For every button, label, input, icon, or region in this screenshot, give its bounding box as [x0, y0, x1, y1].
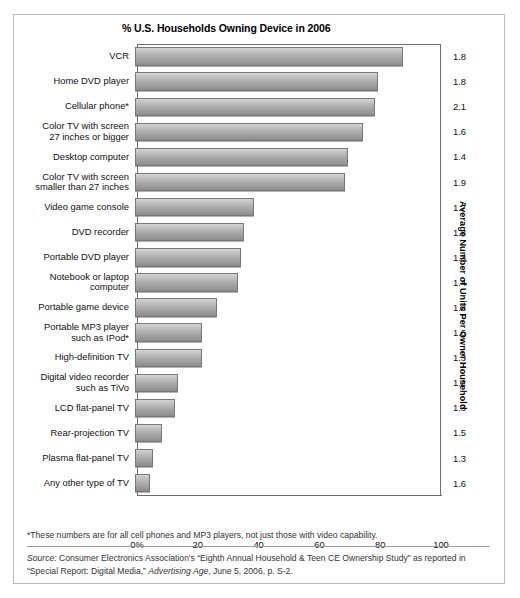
units-per-household-value: 1.2 — [439, 377, 499, 388]
bar-cell — [135, 69, 439, 94]
units-per-household-value: 1.3 — [439, 352, 499, 363]
bar — [135, 449, 153, 467]
units-per-household-value: 1.5 — [439, 427, 499, 438]
bar-cell — [135, 446, 439, 471]
bar-cell — [135, 119, 439, 144]
bar-row-label: DVD recorder — [13, 227, 135, 238]
bar — [135, 374, 178, 392]
bar-row-label-line1: LCD flat-panel TV — [55, 402, 129, 413]
bar-cell — [135, 270, 439, 295]
bar-row: LCD flat-panel TV1.3 — [13, 395, 505, 420]
bar-row-label-line2: such as TiVo — [13, 383, 129, 394]
bar-cell — [135, 94, 439, 119]
bar — [135, 323, 202, 341]
chart-page: % U.S. Households Owning Device in 2006 … — [0, 0, 520, 598]
bar — [135, 474, 150, 492]
bar-row-label: Color TV with screensmaller than 27 inch… — [13, 172, 135, 193]
bar-cell — [135, 420, 439, 445]
bar-cell — [135, 471, 439, 496]
bar-row-label: Notebook or laptopcomputer — [13, 272, 135, 293]
bar-row: Rear-projection TV1.5 — [13, 420, 505, 445]
bar-cell — [135, 345, 439, 370]
bar — [135, 173, 345, 191]
bar-row-label: Plasma flat-panel TV — [13, 453, 135, 464]
bar-row-label: Any other type of TV — [13, 478, 135, 489]
bar-cell — [135, 195, 439, 220]
bar-cell — [135, 245, 439, 270]
units-per-household-value: 1.3 — [439, 227, 499, 238]
bar-row-label: Cellular phone* — [13, 101, 135, 112]
bar-cell — [135, 220, 439, 245]
footnote: *These numbers are for all cell phones a… — [27, 530, 487, 541]
units-per-household-value: 1.4 — [439, 277, 499, 288]
bar-cell — [135, 169, 439, 194]
units-per-household-value: 1.6 — [439, 126, 499, 137]
bar-row-label-line1: Portable game device — [38, 301, 129, 312]
bar-row: Plasma flat-panel TV1.3 — [13, 446, 505, 471]
bar — [135, 148, 348, 166]
bar-row-label: Video game console — [13, 202, 135, 213]
bar-row: Portable DVD player1.3 — [13, 245, 505, 270]
bar-row: VCR1.8 — [13, 44, 505, 69]
bar-cell — [135, 295, 439, 320]
bar-row-label-line2: smaller than 27 inches — [13, 182, 129, 193]
bar-row-label-line1: Portable DVD player — [44, 251, 129, 262]
bar-row-label: LCD flat-panel TV — [13, 403, 135, 414]
units-per-household-value: 1.7 — [439, 202, 499, 213]
bar-cell — [135, 144, 439, 169]
bar-rows: VCR1.8Home DVD player1.8Cellular phone*2… — [13, 44, 505, 496]
bar — [135, 123, 363, 141]
bar-row-label-line1: DVD recorder — [72, 226, 129, 237]
bar-row-label-line1: Portable MP3 player — [44, 321, 129, 332]
bar-row: Notebook or laptopcomputer1.4 — [13, 270, 505, 295]
bar-row-label-line1: Color TV with screen — [42, 171, 129, 182]
units-per-household-value: 1.4 — [439, 151, 499, 162]
bar-row-label-line1: Video game console — [44, 201, 129, 212]
bar-row-label-line1: High-definition TV — [55, 351, 129, 362]
bar-cell — [135, 44, 439, 69]
bar — [135, 424, 162, 442]
bar-row: Any other type of TV1.6 — [13, 471, 505, 496]
source-publication: Advertising Age — [148, 566, 208, 576]
units-per-household-value: 1.8 — [439, 302, 499, 313]
source-label: Source: — [27, 553, 57, 563]
bar-row-label: Portable game device — [13, 302, 135, 313]
bar — [135, 223, 244, 241]
bar-row-label-line2: computer — [13, 282, 129, 293]
bar-row-label-line1: Digital video recorder — [40, 371, 129, 382]
bar-row-label-line1: Desktop computer — [53, 151, 129, 162]
bar — [135, 298, 217, 316]
bar-row: High-definition TV1.3 — [13, 345, 505, 370]
bar — [135, 349, 202, 367]
bar-row-label-line2: such as IPod* — [13, 333, 129, 344]
bar-cell — [135, 320, 439, 345]
bar-row-label-line2: 27 inches or bigger — [13, 132, 129, 143]
bar-row-label: Portable MP3 playersuch as IPod* — [13, 322, 135, 343]
bar-row: Video game console1.7 — [13, 195, 505, 220]
bar — [135, 399, 175, 417]
right-axis-title: Average Number of Units Per Owner Househ… — [458, 201, 468, 410]
chart-title: % U.S. Households Owning Device in 2006 — [122, 22, 331, 34]
bar-row: Portable MP3 playersuch as IPod*1.6 — [13, 320, 505, 345]
source-text-2: , June 5, 2006, p. S-2. — [208, 566, 293, 576]
bar-row-label-line1: Rear-projection TV — [50, 427, 129, 438]
bar — [135, 248, 241, 266]
bar-row: Color TV with screensmaller than 27 inch… — [13, 169, 505, 194]
bar-row-label: Desktop computer — [13, 152, 135, 163]
bar-cell — [135, 395, 439, 420]
units-per-household-value: 1.6 — [439, 478, 499, 489]
bar — [135, 72, 378, 90]
footnote-divider — [27, 546, 490, 547]
units-per-household-value: 1.9 — [439, 177, 499, 188]
bar-row-label-line1: Plasma flat-panel TV — [42, 452, 129, 463]
bar-cell — [135, 370, 439, 395]
units-per-household-value: 1.6 — [439, 327, 499, 338]
units-per-household-value: 1.3 — [439, 453, 499, 464]
units-per-household-value: 1.3 — [439, 252, 499, 263]
bar-row-label: Rear-projection TV — [13, 428, 135, 439]
bar-row: Portable game device1.8 — [13, 295, 505, 320]
bar-row-label-line1: Color TV with screen — [42, 120, 129, 131]
bar-row-label-line1: Any other type of TV — [44, 477, 129, 488]
bar-row: Home DVD player1.8 — [13, 69, 505, 94]
plot-area: VCR1.8Home DVD player1.8Cellular phone*2… — [13, 41, 505, 496]
